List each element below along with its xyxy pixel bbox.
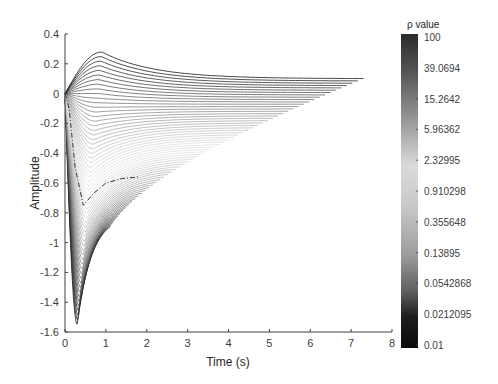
response-curve — [65, 94, 268, 135]
y-tick-label: -0.4 — [40, 147, 59, 159]
x-tick-label: 8 — [389, 337, 395, 349]
colorbar-tick-label: 39.0694 — [424, 63, 461, 74]
y-tick-label: -1 — [49, 237, 59, 249]
figure: 0123456780.40.20-0.2-0.4-0.6-0.8-1-1.2-1… — [0, 0, 498, 384]
y-tick-label: -0.6 — [40, 177, 59, 189]
response-curve — [65, 80, 330, 94]
plot-area — [65, 52, 363, 324]
colorbar-tick-label: 5.96362 — [424, 124, 461, 135]
y-tick-label: -1.2 — [40, 266, 59, 278]
colorbar-tick-label: 0.13895 — [424, 248, 461, 259]
x-tick-label: 4 — [225, 337, 231, 349]
y-tick-label: -0.2 — [40, 117, 59, 129]
colorbar-tick-label: 2.32995 — [424, 155, 461, 166]
response-curve — [65, 94, 215, 186]
x-tick-label: 7 — [348, 337, 354, 349]
response-curve — [65, 52, 363, 94]
colorbar-tick-label: 0.0212095 — [424, 309, 472, 320]
x-tick-label: 2 — [144, 337, 150, 349]
x-tick-label: 1 — [103, 337, 109, 349]
colorbar-ticks: 10039.069415.26425.963622.329950.9102980… — [416, 32, 472, 351]
x-tick-label: 5 — [266, 337, 272, 349]
y-axis-label: Amplitude — [28, 156, 42, 210]
colorbar-tick-label: 15.2642 — [424, 94, 461, 105]
colorbar-tick-label: 100 — [424, 32, 441, 43]
colorbar-tick-label: 0.355648 — [424, 217, 466, 228]
x-axis-label: Time (s) — [206, 355, 250, 369]
x-tick-label: 0 — [62, 337, 68, 349]
y-tick-label: -1.4 — [40, 296, 59, 308]
response-curve — [65, 94, 234, 168]
colorbar-gradient — [401, 34, 418, 348]
y-tick-label: 0 — [53, 88, 59, 100]
colorbar: ρ value 10039.069415.26425.963622.329950… — [401, 19, 472, 351]
colorbar-tick-label: 0.910298 — [424, 186, 466, 197]
y-tick-label: 0.2 — [44, 58, 59, 70]
colorbar-tick-label: 0.0542868 — [424, 278, 472, 289]
y-tick-label: -1.6 — [40, 326, 59, 338]
x-tick-label: 6 — [307, 337, 313, 349]
colorbar-tick-label: 0.01 — [424, 340, 444, 351]
response-curve — [65, 66, 347, 94]
y-tick-label: -0.8 — [40, 207, 59, 219]
x-tick-label: 3 — [185, 337, 191, 349]
colorbar-label: ρ value — [407, 19, 440, 30]
y-tick-label: 0.4 — [44, 28, 59, 40]
